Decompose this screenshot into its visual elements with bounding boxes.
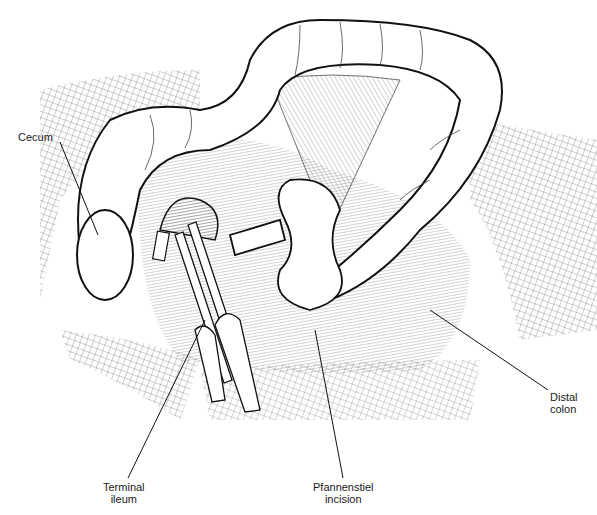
cecum-shape	[77, 210, 133, 300]
label-distal-colon-line2: colon	[550, 403, 578, 415]
label-cecum-text: Cecum	[18, 131, 53, 143]
label-terminal-ileum-line1: Terminal	[103, 481, 145, 493]
label-distal-colon: Distal colon	[550, 391, 578, 415]
label-terminal-ileum-line2: ileum	[103, 493, 145, 505]
label-pfannenstiel-line1: Pfannenstiel	[313, 481, 374, 493]
surgical-illustration	[0, 0, 597, 515]
label-pfannenstiel-incision: Pfannenstiel incision	[313, 481, 374, 505]
label-distal-colon-line1: Distal	[550, 391, 578, 403]
label-terminal-ileum: Terminal ileum	[103, 481, 145, 505]
label-cecum: Cecum	[18, 131, 53, 143]
label-pfannenstiel-line2: incision	[313, 493, 374, 505]
